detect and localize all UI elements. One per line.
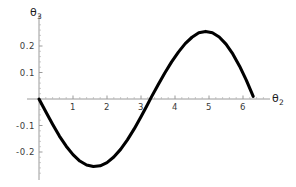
- x-tick-label: 3: [132, 102, 150, 112]
- x-tick-label: 1: [64, 102, 82, 112]
- x-axis-ticks: [73, 96, 243, 100]
- y-tick-label: -0.2: [2, 147, 35, 157]
- x-tick-label: 4: [166, 102, 184, 112]
- x-axis: [27, 96, 270, 100]
- y-tick-label: -0.1: [2, 121, 35, 131]
- x-tick-label: 2: [98, 102, 116, 112]
- chart-container: 123456 -0.2-0.10.10.2 θ3 θ2: [0, 0, 296, 187]
- y-tick-label: 0.2: [2, 41, 35, 51]
- x-tick-label: 5: [200, 102, 218, 112]
- y-tick-label: 0.1: [2, 68, 35, 78]
- chart-plot-area: [0, 0, 296, 187]
- x-tick-label: 6: [234, 102, 252, 112]
- x-axis-title: θ2: [272, 92, 284, 105]
- y-axis-title: θ3: [30, 6, 42, 19]
